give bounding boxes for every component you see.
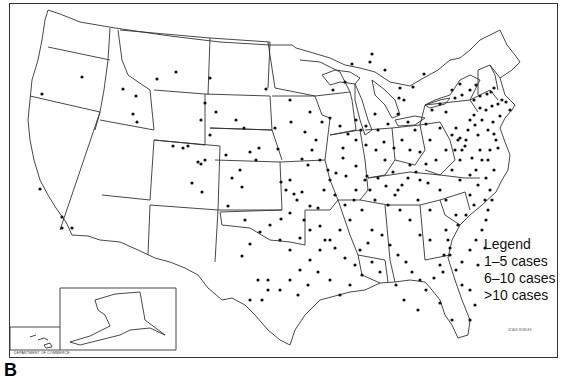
case-dot <box>240 254 243 257</box>
case-dot <box>171 144 174 147</box>
case-dot <box>466 128 469 131</box>
case-dot <box>348 283 351 286</box>
case-dot <box>343 203 346 206</box>
case-dot <box>203 158 206 161</box>
case-dot <box>396 253 399 256</box>
case-dot <box>484 218 487 221</box>
case-dot <box>488 188 491 191</box>
case-dot <box>366 241 369 244</box>
case-dot <box>334 171 337 174</box>
case-dot <box>496 102 499 105</box>
case-dot <box>310 148 313 151</box>
case-dot <box>480 118 483 121</box>
case-dot <box>292 192 295 195</box>
case-dot <box>131 112 134 115</box>
case-dot <box>424 122 427 125</box>
case-dot <box>490 104 493 107</box>
case-dot <box>406 176 409 179</box>
case-dot <box>354 188 357 191</box>
case-dot <box>478 94 481 97</box>
case-dot <box>438 126 441 129</box>
case-dot <box>363 178 366 181</box>
case-dot <box>400 183 403 186</box>
case-dot <box>352 198 355 201</box>
case-dot <box>323 238 326 241</box>
case-dot <box>491 120 494 123</box>
case-dot <box>472 98 475 101</box>
case-dot <box>373 112 376 115</box>
case-dot <box>298 268 301 271</box>
case-dot <box>492 86 495 89</box>
case-dot <box>463 144 466 147</box>
case-dot <box>308 228 311 231</box>
case-dot <box>343 80 346 83</box>
case-dot <box>203 101 206 104</box>
case-dot <box>288 178 291 181</box>
case-dot <box>473 123 476 126</box>
case-dot <box>442 253 445 256</box>
case-dot <box>444 148 447 151</box>
case-dot <box>398 208 401 211</box>
case-dot <box>314 138 317 141</box>
case-dot <box>354 164 357 167</box>
case-dot <box>273 126 276 129</box>
case-dot <box>196 160 199 163</box>
case-dot <box>441 270 444 273</box>
case-dot <box>288 278 291 281</box>
case-dot <box>320 120 323 123</box>
case-dot <box>408 218 411 221</box>
case-dot <box>373 198 376 201</box>
case-dot <box>284 188 287 191</box>
case-dot <box>260 298 263 301</box>
case-dot <box>504 100 507 103</box>
case-dot <box>300 157 303 160</box>
case-dot <box>494 138 497 141</box>
case-dot <box>468 288 471 291</box>
case-dot <box>288 248 291 251</box>
case-dot <box>489 90 492 93</box>
case-dot <box>458 178 461 181</box>
case-dot <box>248 150 251 153</box>
case-dot <box>328 278 331 281</box>
case-dot <box>386 122 389 125</box>
case-dot <box>424 162 427 165</box>
case-dot <box>396 112 399 115</box>
inset-alaska-hawaii <box>10 288 176 350</box>
case-dot <box>240 185 243 188</box>
case-dot <box>380 233 383 236</box>
case-dot <box>254 158 257 161</box>
case-dot <box>472 113 475 116</box>
case-dot <box>214 110 217 113</box>
case-dot <box>364 143 367 146</box>
case-dot <box>492 168 495 171</box>
case-dot <box>350 62 353 65</box>
case-dot <box>454 268 457 271</box>
case-dot <box>80 75 83 78</box>
case-dot <box>438 263 441 266</box>
legend: Legend 1–5 cases 6–10 cases >10 cases <box>484 236 556 304</box>
case-dot <box>278 288 281 291</box>
case-dot <box>428 238 431 241</box>
case-dot <box>418 233 421 236</box>
case-dot <box>480 228 483 231</box>
case-dot <box>413 128 416 131</box>
state-boundaries <box>28 10 520 345</box>
case-dot <box>382 140 385 143</box>
case-dot <box>308 204 311 207</box>
case-dot <box>460 148 463 151</box>
case-dot <box>264 87 267 90</box>
case-dot <box>450 133 453 136</box>
case-dot <box>266 288 269 291</box>
case-dot <box>288 211 291 214</box>
case-dot <box>243 218 246 221</box>
case-dot <box>508 108 511 111</box>
case-dot <box>338 228 341 231</box>
case-dot <box>392 146 395 149</box>
case-dot <box>318 224 321 227</box>
case-dot <box>341 156 344 159</box>
case-dot <box>428 208 431 211</box>
case-dot <box>458 136 461 139</box>
case-dot <box>450 88 453 91</box>
case-dot <box>348 218 351 221</box>
case-dot <box>279 217 282 220</box>
